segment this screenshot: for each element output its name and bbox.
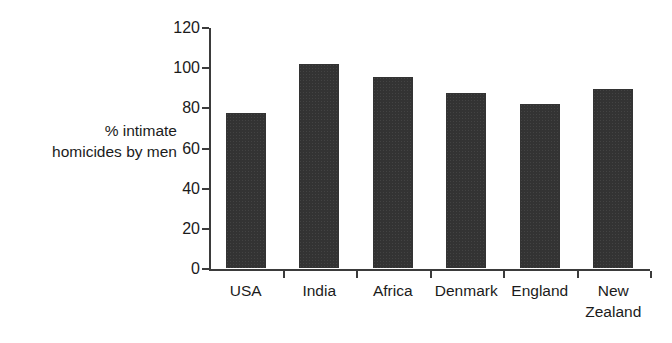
y-axis-tick-label: 20 xyxy=(182,221,200,237)
y-axis-title-line-1: % intimate xyxy=(12,120,177,141)
bar xyxy=(226,113,266,268)
y-axis-tick xyxy=(202,67,209,69)
x-axis-label: USA xyxy=(209,280,283,301)
bar xyxy=(446,93,486,268)
y-axis-tick-label: 60 xyxy=(182,141,200,157)
x-axis-label: Africa xyxy=(356,280,430,301)
x-axis-tick xyxy=(430,271,432,278)
bar-chart-figure: % intimate homicides by men 020406080100… xyxy=(0,0,672,343)
plot-area: 020406080100120 USAIndiaAfricaDenmarkEng… xyxy=(209,28,650,270)
x-axis-tick xyxy=(503,271,505,278)
y-axis-tick xyxy=(202,228,209,230)
y-axis-tick-label: 120 xyxy=(173,20,200,36)
x-axis-tick xyxy=(283,271,285,278)
y-axis-tick-label: 0 xyxy=(191,261,200,277)
x-axis-label-line: Africa xyxy=(356,280,430,301)
y-axis-tick xyxy=(202,268,209,270)
x-axis-tick xyxy=(356,271,358,278)
y-axis-title-line-2: homicides by men xyxy=(12,141,177,162)
x-axis-label-line: Denmark xyxy=(430,280,504,301)
bar xyxy=(593,89,633,268)
x-axis-label: Denmark xyxy=(430,280,504,301)
y-axis-tick xyxy=(202,107,209,109)
y-axis-title: % intimate homicides by men xyxy=(12,120,177,162)
x-axis-tick xyxy=(650,271,652,278)
x-axis-label-line: USA xyxy=(209,280,283,301)
y-axis-tick-label: 100 xyxy=(173,60,200,76)
y-axis-tick xyxy=(202,148,209,150)
bar xyxy=(373,77,413,268)
x-axis-label: India xyxy=(283,280,357,301)
x-axis-label-line: New xyxy=(577,280,651,301)
bar xyxy=(520,104,560,268)
x-axis-tick xyxy=(577,271,579,278)
x-axis-label: NewZealand xyxy=(577,280,651,322)
bar xyxy=(299,64,339,268)
y-axis-tick xyxy=(202,188,209,190)
x-axis-label-line: Zealand xyxy=(577,301,651,322)
y-axis-tick-label: 40 xyxy=(182,181,200,197)
y-axis-tick xyxy=(202,27,209,29)
x-axis-label-line: India xyxy=(283,280,357,301)
y-axis-line xyxy=(209,28,211,271)
x-axis-label: England xyxy=(503,280,577,301)
x-axis-label-line: England xyxy=(503,280,577,301)
y-axis-tick-label: 80 xyxy=(182,100,200,116)
